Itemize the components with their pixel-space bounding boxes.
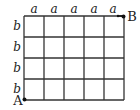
- column-label: a: [70, 2, 77, 16]
- arrow-dot: [117, 15, 119, 17]
- column-label: a: [109, 2, 116, 16]
- column-labels: a a a a a: [30, 2, 116, 16]
- column-label: a: [90, 2, 97, 16]
- column-label: a: [50, 2, 57, 16]
- end-point: B: [117, 9, 137, 24]
- row-label: b: [13, 40, 21, 54]
- row-label: b: [13, 19, 21, 33]
- start-dot: [23, 98, 27, 102]
- start-label: A: [12, 93, 23, 108]
- row-label: b: [13, 61, 21, 75]
- grid-lines: [24, 16, 124, 100]
- column-label: a: [30, 2, 37, 16]
- row-labels: b b b b: [13, 19, 21, 96]
- grid-diagram: a a a a a b b b b A B: [0, 0, 140, 110]
- end-label: B: [127, 9, 137, 24]
- end-dot: [122, 15, 126, 19]
